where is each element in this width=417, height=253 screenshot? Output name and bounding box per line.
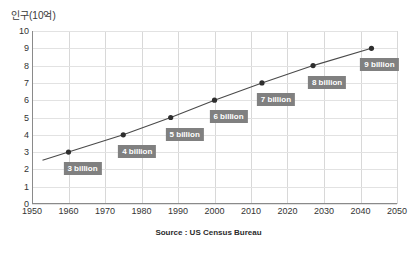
data-point-marker [212,98,217,103]
x-tick-label: 1990 [168,206,188,217]
x-tick-label: 1950 [22,206,42,217]
y-tick-label: 2 [24,164,29,174]
y-axis-ticks: 012345678910 [8,31,29,204]
y-tick-label: 9 [24,43,29,53]
source-note: Source : US Census Bureau [0,228,417,237]
data-point-marker [121,132,126,137]
point-annotation-label: 8 billion [308,76,346,89]
x-tick-label: 1980 [131,206,151,217]
data-point-marker [310,63,315,68]
x-tick-label: 2050 [387,206,407,217]
population-line-chart: 인구(10억) 3 billion4 billion5 billion6 bil… [0,0,417,253]
data-point-marker [369,46,374,51]
point-annotation-label: 9 billion [360,58,398,71]
x-tick-label: 1960 [58,206,78,217]
y-tick-label: 5 [24,113,29,123]
y-tick-label: 6 [24,95,29,105]
point-annotation-label: 4 billion [118,145,156,158]
y-tick-label: 4 [24,130,29,140]
data-point-marker [66,150,71,155]
gridline-horizontal [32,204,397,205]
x-tick-label: 2040 [350,206,370,217]
point-annotation-label: 6 billion [209,110,247,123]
y-tick-label: 8 [24,61,29,71]
data-point-marker [259,80,264,85]
y-tick-label: 1 [24,182,29,192]
point-annotation-label: 7 billion [257,93,295,106]
x-tick-label: 2010 [241,206,261,217]
gridline-vertical [397,31,398,204]
point-annotation-label: 5 billion [166,128,204,141]
data-point-marker [168,115,173,120]
y-axis-title: 인구(10억) [11,7,56,22]
x-tick-label: 2020 [277,206,297,217]
y-tick-label: 3 [24,147,29,157]
x-axis-ticks: 1950196019701980199020002010202020302040… [32,206,397,220]
y-tick-label: 7 [24,78,29,88]
x-tick-label: 2000 [204,206,224,217]
x-tick-label: 1970 [95,206,115,217]
x-tick-label: 2030 [314,206,334,217]
y-tick-label: 10 [19,26,29,36]
series-line [43,48,372,160]
point-annotation-label: 3 billion [63,162,101,175]
plot-area: 3 billion4 billion5 billion6 billion7 bi… [32,31,397,204]
